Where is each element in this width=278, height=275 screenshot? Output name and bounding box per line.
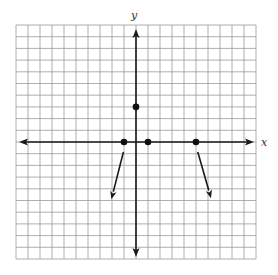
ray-arrow-icon — [110, 191, 116, 200]
y-axis-label: y — [130, 9, 138, 22]
data-point — [145, 139, 152, 146]
coordinate-plane: y x — [0, 0, 278, 275]
data-point — [121, 139, 128, 146]
data-point — [193, 139, 200, 146]
rays — [110, 152, 212, 199]
axes — [19, 29, 254, 257]
ray-line — [113, 152, 123, 192]
data-point — [133, 104, 140, 111]
ray-arrow-icon — [206, 190, 212, 199]
x-axis-label: x — [261, 136, 268, 149]
ray-line — [198, 152, 209, 191]
